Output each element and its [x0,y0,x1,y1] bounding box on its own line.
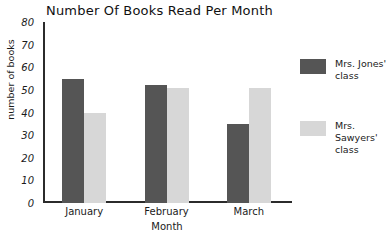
bar-group [62,22,106,203]
bar[interactable] [249,88,271,203]
bar[interactable] [84,113,106,204]
bar[interactable] [62,79,84,203]
bar-group [145,22,189,203]
legend-swatch [300,121,326,136]
x-axis-title: Month [151,221,182,232]
bar-chart-figure: Number Of Books Read Per Month 010203040… [0,0,392,238]
legend-label: Mrs. Jones' class [335,58,391,82]
bar[interactable] [145,85,167,203]
y-axis-tick-label: 80 [21,17,34,28]
legend-swatch [300,59,326,74]
y-axis-tick-label: 40 [21,107,34,118]
y-axis-title: number of books [5,30,16,130]
bar[interactable] [167,88,189,203]
y-axis-tick-label: 50 [21,84,34,95]
legend-label: Mrs. Sawyers' class [335,120,391,156]
bar-group [227,22,271,203]
y-axis-tick-label: 30 [21,130,34,141]
x-axis-tick-label: January [65,206,103,217]
y-axis-tick-label: 0 [28,198,34,209]
legend-entry[interactable]: Mrs. Jones' class [300,58,391,82]
plot-area [43,22,290,203]
x-axis-tick-label: March [234,206,264,217]
chart-title: Number Of Books Read Per Month [46,3,273,18]
y-axis-tick-label: 70 [21,39,34,50]
x-axis-tick-label: February [144,206,188,217]
bar[interactable] [227,124,249,203]
y-axis-tick-label: 10 [21,175,34,186]
y-axis-tick-label: 20 [21,152,34,163]
legend-entry[interactable]: Mrs. Sawyers' class [300,120,391,156]
y-axis-tick-label: 60 [21,62,34,73]
